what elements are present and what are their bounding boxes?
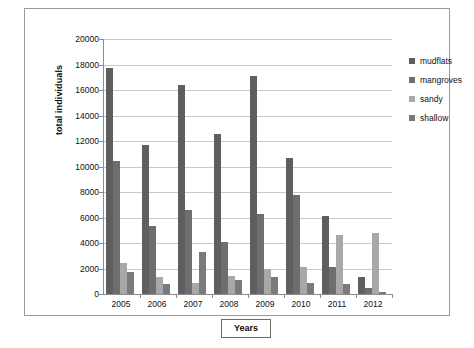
- bar-group: [142, 39, 170, 294]
- bar: [365, 288, 372, 294]
- y-axis-tick-label: 4000: [55, 238, 99, 248]
- legend-label: shallow: [420, 113, 448, 123]
- bar: [250, 76, 257, 294]
- x-axis-tick-label: 2005: [112, 299, 131, 309]
- bar: [192, 283, 199, 294]
- x-axis-tick-labels: 20052006200720082009201020112012: [103, 299, 391, 313]
- bar: [156, 277, 163, 294]
- y-axis-tick-label: 20000: [55, 34, 99, 44]
- x-axis-tick-mark: [320, 294, 321, 298]
- bar-group: [178, 39, 206, 294]
- bar-group: [214, 39, 242, 294]
- bar: [293, 195, 300, 294]
- y-axis-tick-label: 6000: [55, 213, 99, 223]
- x-axis-tick-mark: [212, 294, 213, 298]
- bar: [228, 276, 235, 294]
- x-axis-tick-mark: [248, 294, 249, 298]
- chart-legend: mudflatsmangrovessandyshallow: [409, 51, 474, 127]
- bar: [106, 68, 113, 294]
- y-axis-tick-label: 18000: [55, 60, 99, 70]
- y-axis-tick-labels: 0200040006000800010000120001400016000180…: [55, 31, 99, 301]
- bar: [235, 280, 242, 294]
- bar: [214, 134, 221, 294]
- bar-group: [250, 39, 278, 294]
- bar: [329, 267, 336, 294]
- bar: [322, 216, 329, 294]
- x-axis-tick-label: 2006: [148, 299, 167, 309]
- x-axis-tick-label: 2012: [364, 299, 383, 309]
- bar: [307, 283, 314, 294]
- legend-item: shallow: [409, 108, 474, 127]
- y-axis-tick-label: 2000: [55, 264, 99, 274]
- bar: [264, 269, 271, 295]
- x-axis-tick-label: 2007: [184, 299, 203, 309]
- x-axis-tick-label: 2008: [220, 299, 239, 309]
- legend-item: sandy: [409, 89, 474, 108]
- bar: [163, 284, 170, 294]
- x-axis-tick-mark: [140, 294, 141, 298]
- bar: [113, 161, 120, 294]
- bar: [185, 210, 192, 294]
- chart-figure: total individuals 0200040006000800010000…: [0, 0, 474, 348]
- bar-group: [106, 39, 134, 294]
- bar: [199, 252, 206, 294]
- bar: [372, 233, 379, 294]
- bar: [300, 267, 307, 294]
- legend-swatch-icon: [409, 115, 415, 121]
- chart-frame: total individuals 0200040006000800010000…: [24, 8, 450, 316]
- bar: [221, 242, 228, 294]
- x-axis-tick-label: 2011: [328, 299, 346, 309]
- bar: [149, 226, 156, 294]
- legend-item: mudflats: [409, 51, 474, 70]
- y-axis-tick-label: 8000: [55, 187, 99, 197]
- bar: [142, 145, 149, 294]
- x-axis-tick-mark: [392, 294, 393, 298]
- x-axis-tick-label: 2009: [256, 299, 275, 309]
- plot-area: [103, 39, 392, 295]
- y-axis-tick-label: 12000: [55, 136, 99, 146]
- y-axis-tick-label: 0: [55, 289, 99, 299]
- legend-swatch-icon: [409, 58, 415, 64]
- bar: [358, 277, 365, 294]
- legend-label: mudflats: [420, 56, 452, 66]
- bar: [257, 214, 264, 294]
- bar: [336, 235, 343, 294]
- bar-groups: [104, 39, 392, 294]
- y-axis-tick-label: 16000: [55, 85, 99, 95]
- legend-item: mangroves: [409, 70, 474, 89]
- bar-group: [286, 39, 314, 294]
- x-axis-tick-label: 2010: [292, 299, 311, 309]
- bar-group: [358, 39, 386, 294]
- x-axis-title: Years: [221, 319, 271, 338]
- legend-label: sandy: [420, 94, 443, 104]
- bar: [178, 85, 185, 294]
- legend-label: mangroves: [420, 75, 462, 85]
- bar: [286, 158, 293, 294]
- legend-swatch-icon: [409, 96, 415, 102]
- x-axis-tick-mark: [284, 294, 285, 298]
- x-axis-tick-mark: [356, 294, 357, 298]
- legend-swatch-icon: [409, 77, 415, 83]
- bar: [127, 272, 134, 294]
- y-axis-tick-label: 10000: [55, 162, 99, 172]
- bar: [343, 284, 350, 294]
- bar: [379, 292, 386, 294]
- bar: [271, 277, 278, 294]
- y-axis-tick-label: 14000: [55, 111, 99, 121]
- x-axis-tick-mark: [176, 294, 177, 298]
- bar-group: [322, 39, 350, 294]
- bar: [120, 263, 127, 294]
